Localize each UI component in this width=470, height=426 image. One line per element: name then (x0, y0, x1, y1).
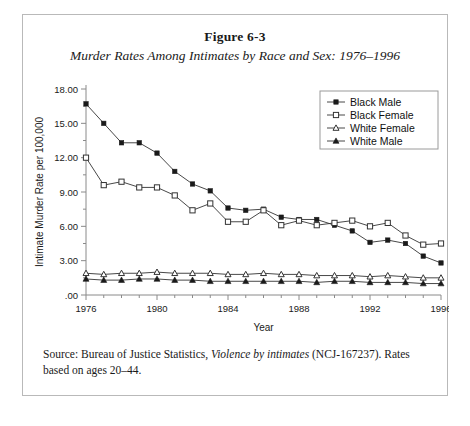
source-publication-title: Violence by intimates (211, 348, 309, 360)
data-point (83, 276, 89, 281)
data-point (244, 208, 248, 212)
x-axis-title: Year (253, 322, 274, 333)
data-point (385, 272, 391, 277)
data-point (190, 208, 195, 213)
data-point (315, 217, 319, 221)
data-point (403, 241, 407, 245)
y-tick-label: 18.00 (54, 84, 78, 95)
data-point (367, 224, 372, 229)
x-tick-label: 1996 (430, 303, 449, 314)
figure-container: Figure 6-3 Murder Rates Among Intimates … (22, 14, 448, 396)
data-point (84, 102, 88, 106)
y-tick-label: 15.00 (54, 118, 78, 129)
data-point (350, 229, 354, 233)
data-point (83, 270, 89, 275)
data-point (226, 206, 230, 210)
data-point (101, 183, 106, 188)
figure-title: Murder Rates Among Intimates by Race and… (23, 48, 447, 64)
data-point (102, 121, 106, 125)
data-point (173, 169, 177, 173)
line-chart: .003.006.009.0012.0015.0018.001976198019… (23, 77, 449, 335)
data-point (279, 223, 284, 228)
data-point (208, 201, 213, 206)
data-point (385, 220, 390, 225)
data-point (172, 193, 177, 198)
x-tick-label: 1980 (146, 303, 167, 314)
data-point (296, 218, 301, 223)
legend-label: Black Female (350, 109, 414, 121)
y-axis-title: Intimate Murder Rate per 100,000 (34, 117, 45, 268)
source-note: Source: Bureau of Justice Statistics, Vi… (43, 347, 431, 378)
data-point (208, 189, 212, 193)
legend-label: Black Male (350, 96, 402, 108)
data-point (332, 220, 337, 225)
data-point (190, 182, 194, 186)
data-point (279, 215, 283, 219)
chart-legend: Black MaleBlack FemaleWhite FemaleWhite … (320, 91, 438, 149)
data-point (421, 242, 426, 247)
data-point (154, 269, 160, 274)
series-black-female (83, 155, 443, 247)
x-tick-label: 1992 (359, 303, 380, 314)
y-tick-label: 6.00 (60, 221, 79, 232)
figure-number: Figure 6-3 (23, 29, 447, 45)
data-point (119, 141, 123, 145)
legend-label: White Female (350, 122, 415, 134)
data-point (439, 261, 443, 265)
data-point (137, 185, 142, 190)
data-point (350, 218, 355, 223)
data-point (403, 233, 408, 238)
data-point (368, 240, 372, 244)
data-point (421, 254, 425, 258)
source-prefix: Source: Bureau of Justice Statistics, (43, 348, 211, 360)
legend-marker-open-square (333, 112, 338, 117)
y-tick-label: 9.00 (60, 187, 79, 198)
chart-plot-area: .003.006.009.0012.0015.0018.001976198019… (23, 77, 449, 335)
x-tick-label: 1984 (217, 303, 238, 314)
data-point (119, 179, 124, 184)
data-point (261, 270, 267, 275)
data-point (438, 241, 443, 246)
x-tick-label: 1976 (75, 303, 96, 314)
series-line (86, 158, 441, 245)
y-tick-label: 3.00 (60, 255, 79, 266)
data-point (386, 238, 390, 242)
data-point (154, 185, 159, 190)
data-point (83, 155, 88, 160)
y-tick-label: 12.00 (54, 152, 78, 163)
data-point (137, 141, 141, 145)
legend-marker-filled-square (334, 100, 338, 104)
data-point (261, 208, 266, 213)
data-point (225, 219, 230, 224)
data-point (155, 151, 159, 155)
data-point (314, 223, 319, 228)
legend-label: White Male (350, 135, 403, 147)
y-tick-label: .00 (65, 290, 78, 301)
data-point (243, 219, 248, 224)
x-tick-label: 1988 (288, 303, 309, 314)
